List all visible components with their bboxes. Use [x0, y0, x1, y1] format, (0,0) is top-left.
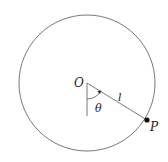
label-theta: θ: [95, 102, 102, 115]
label-o: O: [74, 76, 84, 90]
arrow-head-icon: [98, 91, 102, 95]
label-l: l: [118, 91, 122, 104]
angle-arc: [87, 91, 101, 99]
label-p: P: [149, 120, 159, 134]
point-p-marker: [144, 117, 149, 122]
pendulum-diagram: O P l θ: [0, 0, 168, 162]
